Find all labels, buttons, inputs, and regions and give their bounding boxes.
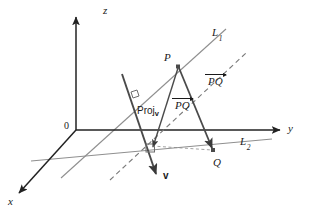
x-axis-label: x xyxy=(8,196,13,207)
line-L1-letter: L xyxy=(212,26,218,38)
line-L1-label: L1 xyxy=(212,27,222,41)
line-L2-path xyxy=(31,139,272,161)
direction-vector-v-line xyxy=(122,74,156,174)
line-L2-letter: L xyxy=(240,135,246,147)
point-P-marker xyxy=(176,65,180,69)
z-axis-label: z xyxy=(103,5,107,16)
projection-prefix: Proj xyxy=(137,105,155,116)
projection-subscript-v: v xyxy=(155,109,159,118)
point-Q-marker xyxy=(211,148,215,152)
line-L2-subscript: 2 xyxy=(247,143,251,152)
point-P-label: P xyxy=(164,52,171,63)
overarrow-bar-upper xyxy=(205,74,226,75)
vector-PQ-upper-label: PQ xyxy=(205,74,226,87)
vector-projection-figure: z y x 0 P Q L1 L2 PQ Projv PQ v xyxy=(0,0,309,212)
direction-vector-v-label: v xyxy=(163,170,169,181)
line-L1-subscript: 1 xyxy=(219,34,223,43)
y-axis-label: y xyxy=(288,123,293,134)
overarrow-bar-inner xyxy=(172,98,193,99)
right-angle-mark-L1 xyxy=(131,90,139,98)
origin-label: 0 xyxy=(64,121,69,131)
vector-PQ-upper-text: PQ xyxy=(205,76,226,87)
point-Q-label: Q xyxy=(213,157,221,168)
vector-PQ-inner-label: PQ xyxy=(172,98,193,111)
x-axis xyxy=(19,130,76,193)
line-L2-label: L2 xyxy=(240,136,250,150)
projection-label: Projv xyxy=(137,105,159,116)
vector-PQ-inner-text: PQ xyxy=(172,100,193,111)
